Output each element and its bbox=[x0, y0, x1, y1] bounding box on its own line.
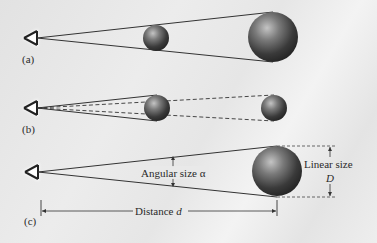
angular-size-diagram: (a) (b) Angular size α bbox=[0, 0, 377, 243]
eye-icon bbox=[22, 99, 38, 117]
sight-line-top bbox=[37, 95, 157, 108]
angular-size-label: Angular size α bbox=[141, 167, 206, 179]
linear-size-symbol: D bbox=[325, 172, 334, 184]
eye-icon bbox=[22, 29, 38, 47]
linear-size-label: Linear size bbox=[304, 158, 353, 170]
distance-label: Distance d bbox=[135, 205, 182, 217]
sight-line-bottom bbox=[37, 108, 157, 121]
large-sphere bbox=[248, 12, 298, 62]
panel-label-b: (b) bbox=[22, 123, 35, 136]
panel-label-c: (c) bbox=[24, 215, 37, 228]
eye-icon bbox=[22, 163, 39, 181]
near-sphere bbox=[144, 95, 170, 121]
panel-b: (b) bbox=[22, 95, 287, 136]
sphere bbox=[252, 146, 302, 196]
panel-a: (a) bbox=[22, 12, 298, 66]
small-sphere bbox=[143, 25, 169, 51]
far-sphere bbox=[261, 95, 287, 121]
panel-label-a: (a) bbox=[22, 53, 35, 66]
panel-c: Angular size α Linear size D Distance d … bbox=[22, 146, 353, 228]
